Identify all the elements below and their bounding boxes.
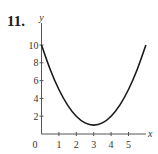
tick-labels: 12345246810	[29, 40, 132, 151]
data-curve	[42, 45, 146, 125]
y-tick-label: 8	[34, 57, 39, 68]
y-axis-label: y	[38, 12, 44, 23]
y-tick-label: 2	[34, 111, 39, 122]
axes	[42, 23, 147, 134]
x-axis-label: x	[147, 128, 153, 139]
problem-number: 11.	[7, 13, 25, 29]
x-tick-label: 4	[109, 139, 114, 150]
y-tick-label: 10	[29, 40, 39, 51]
origin-label: 0	[33, 139, 38, 150]
y-tick-label: 4	[34, 93, 39, 104]
x-tick-label: 1	[56, 139, 61, 150]
x-tick-label: 5	[126, 139, 131, 150]
y-tick-label: 6	[34, 75, 39, 86]
x-tick-label: 3	[91, 139, 96, 150]
parabola-chart: 11. 12345246810 x y 0	[0, 0, 158, 154]
x-tick-label: 2	[74, 139, 79, 150]
